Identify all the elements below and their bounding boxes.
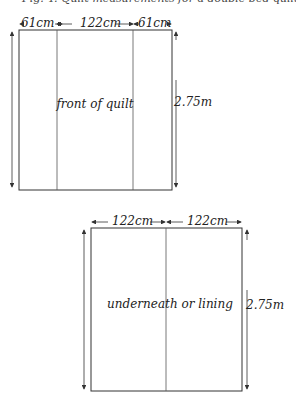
front-height-label: 2.75m: [173, 95, 212, 109]
front-width-right-label: 61cm: [138, 16, 171, 30]
front-width-center-label: 122cm: [80, 16, 121, 30]
lining-label: underneath or lining: [107, 297, 233, 311]
front-quilt-panel: 61cm 122cm 61cm 2.75m front of quilt: [12, 16, 212, 190]
lining-height-label: 2.75m: [245, 298, 284, 312]
quilt-diagram: 61cm 122cm 61cm 2.75m front of quilt 122…: [0, 0, 296, 403]
front-quilt-label: front of quilt: [55, 97, 133, 111]
lining-panel: 122cm 122cm 2.75m underneath or lining: [84, 214, 284, 391]
front-width-left-label: 61cm: [21, 16, 54, 30]
lining-width-right-label: 122cm: [187, 214, 228, 228]
lining-width-left-label: 122cm: [112, 214, 153, 228]
